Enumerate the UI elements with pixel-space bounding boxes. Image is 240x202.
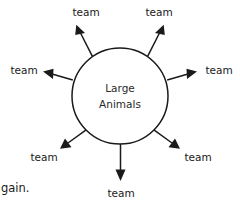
arrow-head-top-left <box>75 25 85 35</box>
radial-spoke-diagram: Large Animals team team team team team t… <box>0 0 240 202</box>
spoke-label-bottom-left: team <box>30 151 57 163</box>
spoke-label-top-right: team <box>145 6 172 18</box>
hub-label-line-2: Animals <box>99 98 141 110</box>
arrow-head-left <box>43 69 54 79</box>
spoke-bottom-center <box>116 144 126 181</box>
spoke-top-right <box>148 25 165 57</box>
spoke-label-right: team <box>205 64 232 76</box>
spoke-right <box>167 69 197 80</box>
arrow-head-bottom-center <box>116 170 126 182</box>
partial-caption-text: gain. <box>1 181 30 195</box>
spoke-line-bottom-right <box>154 130 172 143</box>
arrow-head-bottom-right <box>169 139 181 149</box>
diagram-page: Large Animals team team team team team t… <box>0 0 240 202</box>
spoke-line-top-right <box>148 32 160 56</box>
spoke-line-bottom-left <box>68 130 86 143</box>
arrow-head-top-right <box>155 25 165 35</box>
spoke-line-top-left <box>80 32 92 56</box>
spoke-label-bottom-center: team <box>107 187 134 199</box>
spoke-line-left <box>52 74 73 80</box>
spoke-bottom-left <box>60 130 86 149</box>
hub-label-line-1: Large <box>105 82 135 94</box>
spoke-top-left <box>75 25 92 57</box>
spoke-left <box>43 69 73 80</box>
arrow-head-right <box>187 69 198 79</box>
arrow-head-bottom-left <box>60 139 72 149</box>
spoke-label-left: team <box>10 64 37 76</box>
spoke-label-bottom-right: team <box>184 151 211 163</box>
spoke-line-right <box>167 74 188 80</box>
spoke-label-top-left: team <box>72 6 99 18</box>
hub-circle <box>72 48 168 144</box>
spoke-bottom-right <box>154 130 180 149</box>
